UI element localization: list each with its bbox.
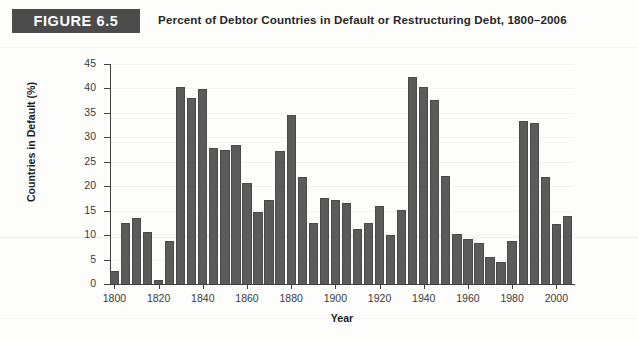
bar [430,100,439,284]
bar [474,243,483,284]
plot-area [110,64,574,284]
x-axis-line [110,284,575,285]
bar [309,223,318,284]
bar [231,145,240,284]
y-axis-tick-label: 15 [84,204,96,216]
x-axis-tick-label: 1880 [268,292,314,304]
bar [419,87,428,285]
x-axis-tick-mark [468,284,469,289]
x-axis-tick-mark [291,284,292,289]
bar [242,183,251,284]
bar [132,218,141,284]
bar [220,150,229,284]
bar [110,271,119,284]
bar [397,210,406,284]
x-axis-tick-label: 1980 [489,292,535,304]
x-axis-tick-label: 1860 [224,292,270,304]
bar [121,223,130,284]
y-axis-tick-label: 35 [84,106,96,118]
x-axis-tick-mark [380,284,381,289]
bar [331,200,340,284]
bar [452,234,461,284]
bar [342,203,351,284]
x-axis-tick-label: 1800 [91,292,137,304]
bar [143,232,152,284]
figure-title: Percent of Debtor Countries in Default o… [158,13,567,26]
bar [275,151,284,284]
bar [287,115,296,284]
y-axis-tick-label: 5 [90,253,96,265]
bar [353,229,362,284]
x-axis-tick-mark [203,284,204,289]
bar [530,123,539,284]
bar [198,89,207,284]
bar [441,176,450,284]
y-axis-tick-label: 10 [84,228,96,240]
bar [375,206,384,284]
bar [507,241,516,284]
figure-root: FIGURE 6.5 Percent of Debtor Countries i… [0,0,638,340]
x-axis-tick-label: 1940 [401,292,447,304]
y-axis-tick-label: 20 [84,179,96,191]
x-axis-tick-mark [114,284,115,289]
bar [563,216,572,284]
x-axis-tick-label: 2000 [533,292,579,304]
bar [408,77,417,284]
x-axis-tick-mark [335,284,336,289]
x-axis-tick-label: 1960 [445,292,491,304]
bar [209,148,218,284]
y-axis-tick-label: 30 [84,130,96,142]
x-axis-tick-label: 1840 [180,292,226,304]
bar [496,262,505,284]
bar [253,212,262,284]
bar [187,98,196,284]
bar [176,87,185,284]
x-axis-tick-label: 1900 [312,292,358,304]
bar [264,200,273,284]
figure-number-badge: FIGURE 6.5 [12,9,140,33]
y-axis-tick-label: 25 [84,155,96,167]
bar [552,224,561,284]
y-axis-tick-label: 0 [90,277,96,289]
x-axis-tick-mark [159,284,160,289]
x-axis-tick-label: 1820 [136,292,182,304]
bar [386,235,395,284]
bar [364,223,373,284]
x-axis-tick-mark [424,284,425,289]
y-axis-tick-label: 45 [84,57,96,69]
x-axis-title: Year [110,312,574,324]
bar [485,257,494,284]
bar [519,121,528,284]
x-axis-tick-mark [556,284,557,289]
bar [463,239,472,284]
x-axis-tick-mark [247,284,248,289]
x-axis-tick-label: 1920 [357,292,403,304]
x-axis-tick-mark [512,284,513,289]
bar [165,241,174,284]
figure-header: FIGURE 6.5 Percent of Debtor Countries i… [0,0,638,44]
y-axis-title: Countries in Default (%) [25,47,37,237]
chart-area: Countries in Default (%) 051015202530354… [0,44,638,340]
bar [320,198,329,284]
y-axis-tick-label: 40 [84,81,96,93]
bar [541,177,550,284]
bar [298,177,307,284]
